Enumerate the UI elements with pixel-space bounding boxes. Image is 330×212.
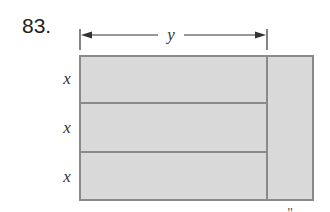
arrow-left-icon	[81, 32, 92, 39]
y-label: y	[165, 25, 175, 44]
outer-rectangle	[80, 56, 313, 200]
x-label-row-1: x	[62, 69, 71, 88]
x-label-row-2: x	[62, 118, 71, 137]
x-label-row-3: x	[62, 167, 71, 186]
arrow-right-icon	[255, 32, 266, 39]
partial-bottom-label: "	[287, 206, 293, 212]
area-diagram: y x x x "	[0, 0, 330, 212]
